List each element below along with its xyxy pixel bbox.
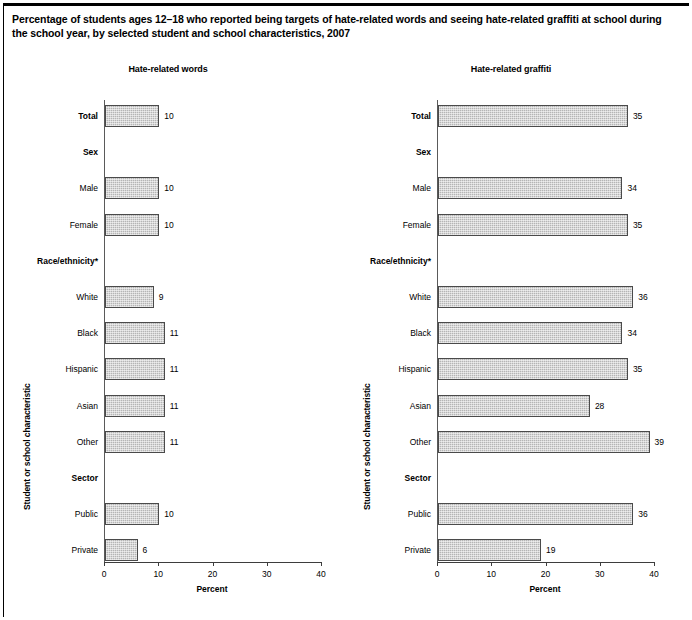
category-label: White xyxy=(281,286,431,308)
category-label: Male xyxy=(281,177,431,199)
bar-value-label: 35 xyxy=(633,105,642,127)
x-axis-tick-label: 0 xyxy=(435,569,440,579)
bar xyxy=(105,322,165,344)
bar-value-label: 34 xyxy=(627,322,636,344)
bar xyxy=(438,214,628,236)
x-axis-tick-label: 0 xyxy=(102,569,107,579)
x-axis-tick xyxy=(491,562,492,566)
bar xyxy=(105,539,138,561)
bar-value-label: 11 xyxy=(170,322,179,344)
bar xyxy=(438,395,590,417)
bar-value-label: 35 xyxy=(633,358,642,380)
x-axis-tick xyxy=(321,562,322,566)
bar xyxy=(105,431,165,453)
bar xyxy=(105,214,159,236)
bar xyxy=(438,503,633,525)
bar-value-label: 11 xyxy=(170,395,179,417)
x-axis-tick xyxy=(104,562,105,566)
panel-title: Hate-related words xyxy=(33,64,303,74)
x-axis-tick-label: 20 xyxy=(541,569,550,579)
bar-value-label: 36 xyxy=(638,503,647,525)
bar-value-label: 35 xyxy=(633,214,642,236)
category-label: Sector xyxy=(0,467,98,489)
x-axis-tick-label: 30 xyxy=(595,569,604,579)
category-label: Asian xyxy=(281,395,431,417)
chart-row: Female35 xyxy=(437,214,654,236)
bar xyxy=(105,395,165,417)
chart-row: Total35 xyxy=(437,105,654,127)
chart-row: Public36 xyxy=(437,503,654,525)
bar xyxy=(438,286,633,308)
category-label: Private xyxy=(0,539,98,561)
chart-row: Race/ethnicity* xyxy=(437,250,654,272)
bar-value-label: 34 xyxy=(627,177,636,199)
chart-row: Male34 xyxy=(437,177,654,199)
bar-value-label: 10 xyxy=(164,503,173,525)
bar-value-label: 11 xyxy=(170,358,179,380)
chart-row: Sector xyxy=(437,467,654,489)
category-label: Black xyxy=(281,322,431,344)
bar-value-label: 10 xyxy=(164,177,173,199)
bar xyxy=(438,431,650,453)
chart-row: Sex xyxy=(437,141,654,163)
chart-row: White36 xyxy=(437,286,654,308)
bar xyxy=(105,286,154,308)
plot-area: Percent 010203040Total35SexMale34Female3… xyxy=(437,100,665,562)
category-label: Private xyxy=(281,539,431,561)
x-axis-tick-label: 40 xyxy=(316,569,325,579)
x-axis-title: Percent xyxy=(196,584,227,594)
x-axis-tick xyxy=(158,562,159,566)
x-axis-tick xyxy=(600,562,601,566)
x-axis-tick-label: 10 xyxy=(487,569,496,579)
category-label: Sex xyxy=(0,141,98,163)
bar xyxy=(438,539,541,561)
category-label: Male xyxy=(0,177,98,199)
bar-value-label: 28 xyxy=(595,395,604,417)
bar-value-label: 39 xyxy=(655,431,664,453)
bar xyxy=(438,105,628,127)
bar-value-label: 10 xyxy=(164,105,173,127)
x-axis-tick xyxy=(654,562,655,566)
panel-hate-related-graffiti: Hate-related graffiti Student or school … xyxy=(348,60,688,610)
category-label: Sector xyxy=(281,467,431,489)
bar xyxy=(105,177,159,199)
chart-row: Hispanic35 xyxy=(437,358,654,380)
frame-top-rule xyxy=(3,3,689,6)
chart-row: Asian28 xyxy=(437,395,654,417)
category-label: Public xyxy=(0,503,98,525)
category-label: Female xyxy=(0,214,98,236)
figure-page: Percentage of students ages 12–18 who re… xyxy=(0,0,692,620)
x-axis-tick xyxy=(546,562,547,566)
x-axis-tick xyxy=(213,562,214,566)
category-label: Asian xyxy=(0,395,98,417)
x-axis-title: Percent xyxy=(529,584,560,594)
category-label: Sex xyxy=(281,141,431,163)
category-label: Black xyxy=(0,322,98,344)
category-label: Total xyxy=(281,105,431,127)
bar-value-label: 19 xyxy=(546,539,555,561)
category-label: Hispanic xyxy=(0,358,98,380)
bar xyxy=(105,358,165,380)
category-label: Hispanic xyxy=(281,358,431,380)
x-axis-tick xyxy=(267,562,268,566)
category-label: Race/ethnicity* xyxy=(0,250,98,272)
x-axis-tick-label: 30 xyxy=(262,569,271,579)
bar-value-label: 10 xyxy=(164,214,173,236)
x-axis-tick-label: 10 xyxy=(154,569,163,579)
category-label: Female xyxy=(281,214,431,236)
bar-value-label: 11 xyxy=(170,431,179,453)
bar xyxy=(105,503,159,525)
bar xyxy=(438,177,622,199)
category-label: Total xyxy=(0,105,98,127)
bar xyxy=(105,105,159,127)
bar xyxy=(438,322,622,344)
panel-title: Hate-related graffiti xyxy=(366,64,656,74)
category-label: Other xyxy=(281,431,431,453)
category-label: Public xyxy=(281,503,431,525)
chart-row: Private19 xyxy=(437,539,654,561)
bar-value-label: 9 xyxy=(159,286,164,308)
bar xyxy=(438,358,628,380)
category-label: White xyxy=(0,286,98,308)
figure-title: Percentage of students ages 12–18 who re… xyxy=(12,12,672,40)
x-axis-tick-label: 20 xyxy=(208,569,217,579)
